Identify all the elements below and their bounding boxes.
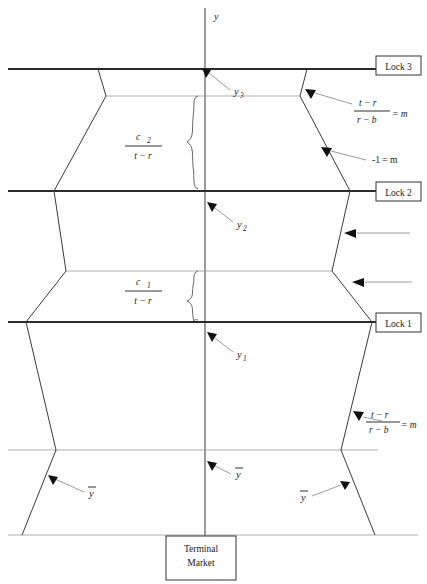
slope-lower-right-annotation: t − r r − b = m	[353, 410, 417, 435]
lock-diagram: Lock 3 Lock 2 Lock 1 Terminal Market y y…	[0, 0, 427, 584]
y1-leader-line	[215, 338, 233, 352]
ybar-right-arrowhead	[340, 481, 350, 490]
lock1-box[interactable]: Lock 1	[376, 313, 421, 332]
y1-arrowhead	[207, 332, 217, 342]
slope-minus-one-label: -1 = m	[372, 155, 398, 165]
y3-leader-line	[209, 73, 230, 90]
ybar-center-leader-line	[215, 466, 231, 474]
lock2-box-label: Lock 2	[385, 188, 412, 198]
c2-brace-group: c 2 t − r	[125, 96, 198, 189]
ybar-right-label: y	[300, 492, 306, 503]
slope-lower-right-denominator: r − b	[369, 425, 389, 435]
slope-minus-one-annotation: -1 = m	[321, 147, 398, 165]
y3-label: y	[233, 86, 239, 97]
slope-upper-right-arrowhead	[305, 89, 316, 99]
terminal-market-label-line1: Terminal	[184, 544, 219, 554]
slope-upper-right-leader-line	[315, 93, 352, 104]
slope-lower-right-equals: = m	[401, 420, 417, 430]
y3-label-subscript: 3	[239, 91, 244, 100]
c1-brace-group: c 1 t − r	[125, 271, 198, 321]
c1-numerator-subscript: 1	[147, 281, 151, 290]
y1-label: y	[236, 349, 242, 360]
ybar-right-annotation: y	[300, 481, 350, 503]
slope-upper-right-denominator: r − b	[357, 115, 377, 125]
slope-minus-one-arrowhead	[321, 147, 332, 157]
c1-numerator: c	[136, 277, 141, 287]
slope-lower-right-arrowhead	[353, 411, 364, 421]
arrow-lock2-lower-arrowhead	[344, 229, 356, 238]
c1-denominator: t − r	[134, 296, 152, 306]
lock1-box-label: Lock 1	[385, 319, 412, 329]
arrow-lock1-upper-arrowhead	[352, 278, 364, 287]
c1-curly-brace	[187, 271, 198, 321]
c2-curly-brace	[187, 96, 198, 189]
terminal-market-label-line2: Market	[187, 558, 215, 568]
slope-lower-right-numerator: t − r	[371, 410, 389, 420]
ybar-center-label: y	[235, 469, 241, 480]
ybar-center-annotation: y	[207, 461, 243, 480]
right-hull-boundary	[300, 69, 375, 535]
arrow-lock1-upper-annotation	[352, 278, 412, 287]
ybar-right-leader-line	[312, 485, 341, 496]
y2-label-subscript: 2	[243, 224, 247, 233]
slope-upper-right-annotation: t − r r − b = m	[305, 89, 408, 125]
c2-numerator-subscript: 2	[147, 136, 151, 145]
slope-upper-right-equals: = m	[392, 109, 408, 119]
terminal-market-box[interactable]: Terminal Market	[166, 536, 236, 580]
y2-leader-line	[215, 208, 233, 222]
slope-upper-right-numerator: t − r	[359, 98, 377, 108]
y2-annotation: y 2	[207, 202, 247, 233]
y1-annotation: y 1	[207, 332, 247, 363]
lock3-box-label: Lock 3	[385, 62, 412, 72]
ybar-left-annotation: y	[48, 475, 96, 499]
y3-annotation: y 3	[202, 68, 244, 100]
lock2-box[interactable]: Lock 2	[376, 182, 421, 201]
slope-minus-one-leader-line	[331, 151, 366, 160]
c2-numerator: c	[136, 132, 141, 142]
arrow-lock2-lower-annotation	[344, 229, 410, 238]
ybar-left-leader-line	[55, 479, 84, 492]
y2-arrowhead	[207, 202, 217, 212]
left-hull-boundary	[22, 69, 106, 535]
ybar-left-label: y	[88, 488, 94, 499]
lock3-box[interactable]: Lock 3	[376, 56, 421, 75]
figure-canvas: Lock 3 Lock 2 Lock 1 Terminal Market y y…	[0, 0, 427, 584]
y2-label: y	[236, 219, 242, 230]
y1-label-subscript: 1	[243, 354, 247, 363]
c2-denominator: t − r	[134, 151, 152, 161]
y-axis-label: y	[213, 11, 219, 22]
